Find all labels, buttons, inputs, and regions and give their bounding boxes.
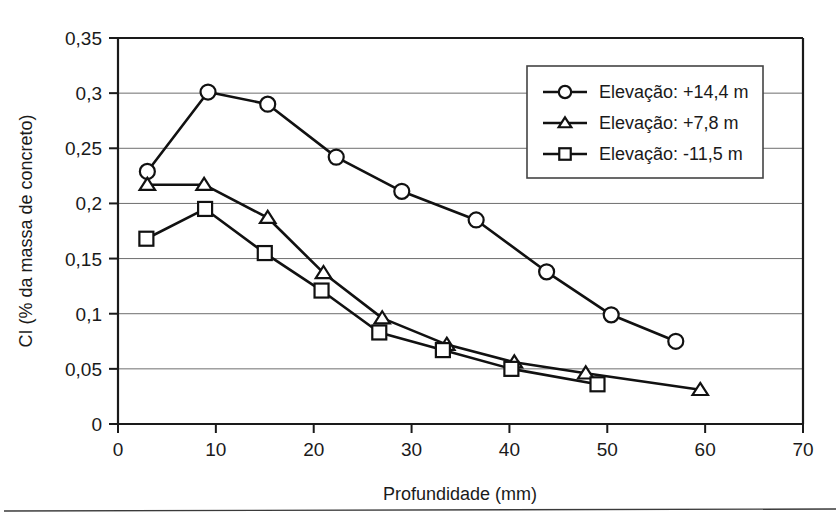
line-chart: 00,050,10,150,20,250,30,35 0102030405060… xyxy=(0,0,840,530)
chart-legend: Elevação: +14,4 mElevação: +7,8 mElevaçã… xyxy=(527,66,763,178)
marker-circle xyxy=(394,184,409,199)
x-tick-label: 40 xyxy=(499,439,520,460)
x-tick-label: 20 xyxy=(303,439,324,460)
y-tick-label: 0,15 xyxy=(65,249,102,270)
marker-square xyxy=(372,325,386,339)
marker-circle xyxy=(559,86,571,98)
footer-divider xyxy=(4,509,836,511)
marker-circle xyxy=(604,307,619,322)
chart-figure: 00,050,10,150,20,250,30,35 0102030405060… xyxy=(0,0,840,530)
y-axis-title: CI (% da massa de concreto) xyxy=(16,114,36,347)
legend-label: Elevação: -11,5 m xyxy=(599,144,743,164)
marker-circle xyxy=(201,85,216,100)
marker-circle xyxy=(329,150,344,165)
y-tick-label: 0,25 xyxy=(65,138,102,159)
marker-square xyxy=(198,202,212,216)
marker-square xyxy=(315,284,329,298)
x-tick-label: 30 xyxy=(401,439,422,460)
series-polyline xyxy=(147,185,700,390)
x-tick-label: 60 xyxy=(695,439,716,460)
series-polyline xyxy=(146,209,597,384)
x-tick-label: 0 xyxy=(113,439,124,460)
legend-label: Elevação: +14,4 m xyxy=(599,82,749,102)
marker-circle xyxy=(469,212,484,227)
marker-square xyxy=(591,377,605,391)
y-tick-label: 0,35 xyxy=(65,28,102,49)
marker-square xyxy=(559,148,570,159)
x-axis-tick-labels: 010203040506070 xyxy=(113,439,814,460)
y-tick-label: 0,3 xyxy=(76,83,102,104)
legend-label: Elevação: +7,8 m xyxy=(599,113,739,133)
marker-square xyxy=(258,246,272,260)
marker-triangle xyxy=(260,211,275,223)
marker-circle xyxy=(668,334,683,349)
series-2 xyxy=(140,178,708,395)
marker-circle xyxy=(539,264,554,279)
y-tick-label: 0 xyxy=(91,414,102,435)
x-tick-label: 70 xyxy=(792,439,813,460)
y-tick-label: 0,2 xyxy=(76,193,102,214)
y-tick-label: 0,05 xyxy=(65,359,102,380)
x-axis-title: Profundidade (mm) xyxy=(383,484,537,504)
x-tick-label: 10 xyxy=(205,439,226,460)
y-axis-tick-labels: 00,050,10,150,20,250,30,35 xyxy=(65,28,102,435)
x-tick-label: 50 xyxy=(597,439,618,460)
series-3 xyxy=(139,202,604,391)
marker-square xyxy=(436,343,450,357)
marker-square xyxy=(139,232,153,246)
marker-square xyxy=(504,362,518,376)
marker-circle xyxy=(260,97,275,112)
y-tick-label: 0,1 xyxy=(76,304,102,325)
